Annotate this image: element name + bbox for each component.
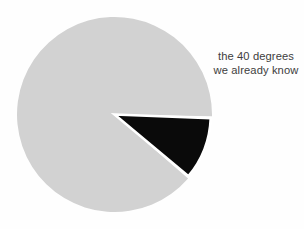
pie-slices (17, 17, 212, 212)
pie-chart-figure: the 40 degrees we already know (0, 0, 304, 229)
annotation-line-2: we already know (212, 63, 300, 77)
pie-chart-svg (0, 0, 304, 229)
slice-annotation-label: the 40 degrees we already know (212, 49, 300, 78)
annotation-line-1: the 40 degrees (212, 49, 300, 63)
